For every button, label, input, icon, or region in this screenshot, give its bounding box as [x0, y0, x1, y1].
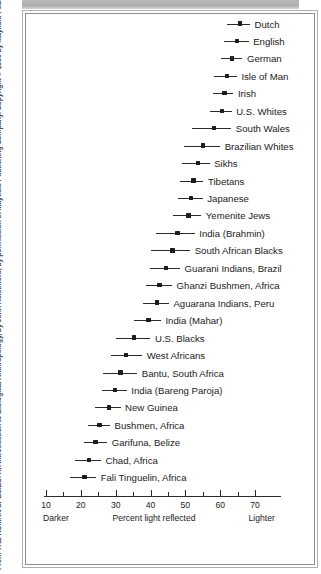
- data-row: U.S. Blacks: [26, 330, 314, 348]
- axis-tick-label: 40: [146, 500, 156, 510]
- data-point-marker: [124, 353, 128, 357]
- axis-tick-label: 60: [215, 500, 225, 510]
- data-row: Ghanzi Bushmen, Africa: [26, 277, 314, 295]
- skin-reflectance-chart: DutchEnglishGermanIsle of ManIrishU.S. W…: [26, 14, 314, 564]
- data-point-marker: [132, 335, 136, 339]
- axis-tick-minor: [98, 492, 99, 496]
- data-point-marker: [97, 423, 101, 427]
- data-row-label: Chad, Africa: [106, 452, 158, 470]
- data-row-label: U.S. Blacks: [155, 330, 205, 348]
- data-row-label: Brazilian Whites: [225, 138, 294, 156]
- data-point-marker: [107, 405, 111, 409]
- axis-tick-minor: [168, 492, 169, 496]
- data-row: Tibetans: [26, 173, 314, 191]
- data-row: Guarani Indians, Brazil: [26, 260, 314, 278]
- data-row-label: Guarani Indians, Brazil: [185, 260, 282, 278]
- data-row-label: New Guinea: [125, 399, 178, 417]
- data-point-marker: [155, 300, 159, 304]
- data-row: U.S. Whites: [26, 103, 314, 121]
- data-row: German: [26, 50, 314, 68]
- data-row: Aguarana Indians, Peru: [26, 295, 314, 313]
- axis-tick-label: 70: [250, 500, 260, 510]
- data-point-marker: [175, 231, 179, 235]
- data-row: Brazilian Whites: [26, 138, 314, 156]
- axis-tick-major: [220, 490, 221, 496]
- data-row: Chad, Africa: [26, 452, 314, 470]
- axis-tick-label: 20: [76, 500, 86, 510]
- axis-tick-major: [255, 490, 256, 496]
- data-row: Bantu, South Africa: [26, 365, 314, 383]
- data-point-marker: [87, 458, 91, 462]
- data-point-marker: [82, 475, 86, 479]
- data-row-label: South Wales: [236, 120, 290, 138]
- data-point-marker: [222, 91, 226, 95]
- data-row: India (Bareng Paroja): [26, 382, 314, 400]
- data-row-label: Dutch: [255, 16, 280, 34]
- data-row-label: West Africans: [147, 347, 205, 365]
- data-point-marker: [220, 109, 224, 113]
- data-row: South Wales: [26, 120, 314, 138]
- data-row-label: Isle of Man: [241, 68, 288, 86]
- data-point-marker: [196, 161, 200, 165]
- data-row-label: Yemenite Jews: [206, 207, 270, 225]
- data-row-label: Japanese: [207, 190, 249, 208]
- data-row-label: English: [253, 33, 284, 51]
- data-row: Japanese: [26, 190, 314, 208]
- axis-tick-minor: [63, 492, 64, 496]
- data-row: Yemenite Jews: [26, 207, 314, 225]
- data-point-marker: [164, 266, 168, 270]
- data-row: New Guinea: [26, 399, 314, 417]
- data-row: South African Blacks: [26, 242, 314, 260]
- data-row-label: Bushmen, Africa: [115, 417, 185, 435]
- data-row: Dutch: [26, 16, 314, 34]
- data-point-marker: [201, 143, 205, 147]
- data-row: Irish: [26, 85, 314, 103]
- axis-tick-label: 30: [111, 500, 121, 510]
- axis-end-label-lighter: Lighter: [249, 513, 275, 523]
- axis-tick-label: 10: [41, 500, 51, 510]
- data-row-label: Tibetans: [208, 173, 244, 191]
- data-row: Sikhs: [26, 155, 314, 173]
- data-row-label: Ghanzi Bushmen, Africa: [177, 277, 280, 295]
- data-row: Fali Tinguelin, Africa: [26, 469, 314, 487]
- data-point-marker: [118, 370, 122, 374]
- data-row-label: U.S. Whites: [236, 103, 287, 121]
- axis-tick-minor: [238, 492, 239, 496]
- data-point-marker: [212, 126, 216, 130]
- data-point-marker: [157, 283, 161, 287]
- data-point-marker: [191, 178, 195, 182]
- x-axis-title: Percent light reflected: [112, 513, 195, 523]
- axis-tick-minor: [133, 492, 134, 496]
- data-row: Bushmen, Africa: [26, 417, 314, 435]
- data-point-marker: [189, 196, 193, 200]
- data-row-label: German: [247, 50, 282, 68]
- data-row-label: India (Mahar): [165, 312, 222, 330]
- data-point-marker: [186, 213, 190, 217]
- axis-tick-major: [185, 490, 186, 496]
- data-row: India (Mahar): [26, 312, 314, 330]
- data-row: Garifuna, Belize: [26, 434, 314, 452]
- axis-tick-minor: [203, 492, 204, 496]
- figure-credit: From THE HUMAN SPECIES: An Introduction …: [0, 0, 20, 574]
- data-row-label: Irish: [238, 85, 256, 103]
- axis-end-label-darker: Darker: [43, 513, 69, 523]
- data-row-label: South African Blacks: [195, 242, 283, 260]
- data-row: English: [26, 33, 314, 51]
- data-row-label: Sikhs: [214, 155, 237, 173]
- data-row: India (Brahmin): [26, 225, 314, 243]
- data-row-label: Aguarana Indians, Peru: [173, 295, 274, 313]
- data-row-label: India (Bareng Paroja): [131, 382, 222, 400]
- axis-tick-major: [116, 490, 117, 496]
- data-point-marker: [170, 248, 174, 252]
- data-row: West Africans: [26, 347, 314, 365]
- data-point-marker: [93, 440, 97, 444]
- axis-tick-major: [151, 490, 152, 496]
- data-point-marker: [113, 388, 117, 392]
- data-point-marker: [238, 21, 242, 25]
- data-row-label: Fali Tinguelin, Africa: [101, 469, 187, 487]
- scan-edge-band: [22, 0, 299, 9]
- axis-tick-major: [81, 490, 82, 496]
- axis-tick-major: [46, 490, 47, 496]
- data-row-label: India (Brahmin): [199, 225, 265, 243]
- data-point-marker: [146, 318, 150, 322]
